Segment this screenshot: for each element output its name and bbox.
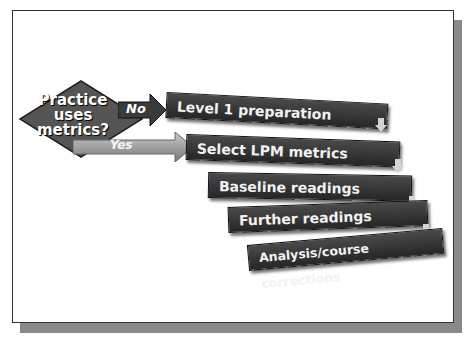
down-arrow-icon bbox=[375, 118, 387, 132]
yes-branch-arrow bbox=[73, 132, 193, 162]
down-arrow-icon bbox=[392, 159, 404, 173]
step-baseline-readings: Baseline readings bbox=[208, 172, 412, 202]
no-branch-label: No bbox=[126, 101, 146, 116]
yes-branch-label: Yes bbox=[110, 138, 132, 152]
